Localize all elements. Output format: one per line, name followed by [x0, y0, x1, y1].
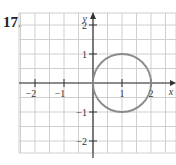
y-tick-label: −2: [76, 136, 87, 147]
x-tick-label: −1: [55, 88, 66, 99]
x-tick-label: 1: [120, 88, 125, 99]
coordinate-plane: −2−112−2−112yx: [0, 0, 176, 165]
x-tick-label: −2: [26, 88, 37, 99]
x-axis-label: x: [168, 86, 174, 97]
y-axis-label: y: [82, 13, 88, 24]
y-tick-label: 1: [82, 49, 87, 60]
y-tick-label: −1: [76, 107, 87, 118]
